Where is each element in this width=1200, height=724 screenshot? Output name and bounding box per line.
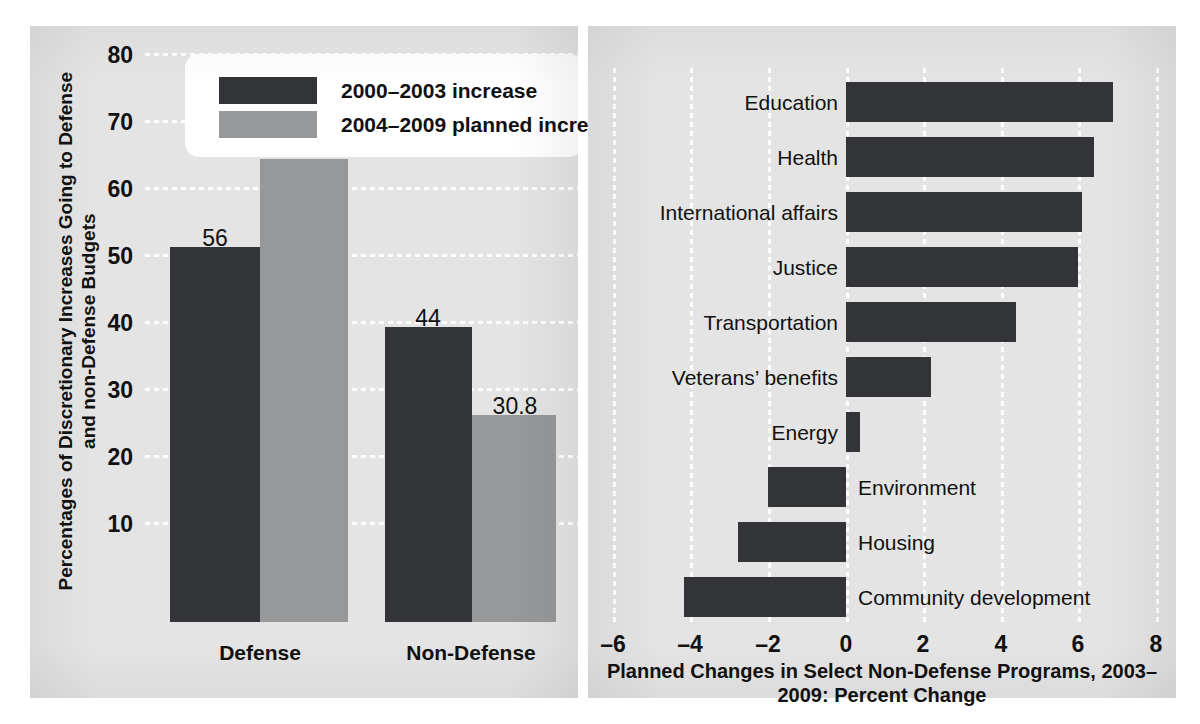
bar-international-affairs [846,192,1082,232]
bar-veterans-benefits [846,357,931,397]
x-category-non-defense: Non-Defense [371,642,571,663]
x-tick-4: 4 [976,633,1026,656]
bar-environment [768,467,846,507]
bar-justice [846,247,1078,287]
x-tick-minus4: –4 [665,633,715,656]
bar-label-health: Health [612,147,838,168]
bar-label-transportation: Transportation [612,312,838,333]
right-chart-x-axis-title: Planned Changes in Select Non-Defense Pr… [588,659,1176,708]
y-tick-40: 40 [87,312,133,335]
left-chart-y-tick-labels: 80 70 60 50 40 30 20 10 [85,52,133,622]
x-tick-6: 6 [1053,633,1103,656]
bar-label-veterans-benefits: Veterans’ benefits [612,367,838,388]
bar-education [846,82,1113,122]
right-chart-plot-area: Education Health International affairs J… [612,66,1152,626]
x-tick-2: 2 [898,633,948,656]
bar-label-housing: Housing [858,532,935,553]
y-tick-50: 50 [87,245,133,268]
x-tick-zero: 0 [821,633,871,656]
y-tick-60: 60 [87,178,133,201]
bar-energy [846,412,860,452]
x-category-defense: Defense [160,642,360,663]
bar-nondefense-2000-2003 [385,327,472,622]
right-chart-panel: Education Health International affairs J… [588,26,1176,698]
bar-health [846,137,1094,177]
bar-label-education: Education [612,92,838,113]
bar-label-international-affairs: International affairs [612,202,838,223]
figure-root: Percentages of Discretionary Increases G… [0,0,1200,724]
bar-nondefense-2004-2009 [472,415,556,622]
bar-value-nondefense-2000-2003: 44 [368,307,488,330]
bar-community-development [684,577,846,617]
x-tick-minus2: –2 [743,633,793,656]
left-chart-legend: 2000–2003 increase 2004–2009 planned inc… [185,54,583,157]
left-chart-panel: Percentages of Discretionary Increases G… [30,26,578,698]
legend-label-2004-2009: 2004–2009 planned increase [341,114,624,135]
bar-transportation [846,302,1016,342]
bar-defense-2000-2003 [170,247,260,622]
bar-housing [738,522,846,562]
legend-swatch-grey-icon [219,111,317,138]
x-tick-minus6: –6 [588,633,638,656]
y-tick-80: 80 [87,44,133,67]
y-tick-10: 10 [87,513,133,536]
x-tick-8: 8 [1131,633,1181,656]
bar-label-community-development: Community development [858,587,1090,608]
legend-swatch-dark-icon [219,77,317,104]
bar-label-energy: Energy [612,422,838,443]
bar-value-nondefense-2004-2009: 30.8 [455,395,575,418]
bar-value-defense-2000-2003: 56 [155,227,275,250]
legend-item-2004-2009: 2004–2009 planned increase [219,110,624,138]
y-tick-70: 70 [87,111,133,134]
bar-label-justice: Justice [612,257,838,278]
bar-defense-2004-2009 [260,159,348,622]
y-tick-30: 30 [87,379,133,402]
y-tick-20: 20 [87,446,133,469]
bar-label-environment: Environment [858,477,976,498]
gridline-x-8 [1156,66,1159,626]
legend-item-2000-2003: 2000–2003 increase [219,76,537,104]
gridline-60 [143,187,590,190]
legend-label-2000-2003: 2000–2003 increase [341,80,537,101]
